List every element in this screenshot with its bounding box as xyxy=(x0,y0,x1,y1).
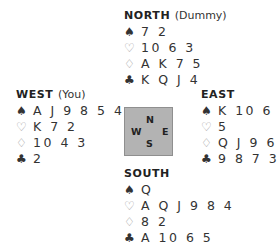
east-spades-cards: K 10 6 3 xyxy=(218,103,279,119)
east-label: EAST xyxy=(201,88,235,101)
diamond-icon: ♢ xyxy=(201,135,218,151)
east-diamonds-cards: Q J 9 6 xyxy=(218,135,277,151)
spade-icon: ♠ xyxy=(124,182,141,198)
north-label: NORTH xyxy=(124,9,170,22)
south-title: SOUTH xyxy=(124,166,234,182)
south-hearts-cards: A Q J 9 8 4 xyxy=(141,198,234,214)
heart-icon: ♡ xyxy=(201,119,218,135)
north-hand: NORTH (Dummy) ♠ 7 2 ♡ 10 6 3 ♢ A K 7 5 ♣… xyxy=(124,8,227,88)
compass-east: E xyxy=(162,127,169,137)
west-spades-cards: A J 9 8 5 4 xyxy=(33,103,124,119)
east-diamonds-row: ♢ Q J 9 6 xyxy=(201,135,279,151)
diamond-icon: ♢ xyxy=(124,56,141,72)
west-clubs-cards: 2 xyxy=(33,151,43,167)
west-role: (You) xyxy=(58,88,86,101)
south-hearts-row: ♡ A Q J 9 8 4 xyxy=(124,198,234,214)
north-diamonds-cards: A K 7 5 xyxy=(141,56,203,72)
east-clubs-cards: 9 8 7 3 xyxy=(218,151,279,167)
south-clubs-cards: A 10 6 5 xyxy=(141,230,213,246)
west-title: WEST (You) xyxy=(16,87,124,103)
east-hearts-row: ♡ 5 xyxy=(201,119,279,135)
spade-icon: ♠ xyxy=(124,24,141,40)
west-clubs-row: ♣ 2 xyxy=(16,151,124,167)
east-clubs-row: ♣ 9 8 7 3 xyxy=(201,151,279,167)
compass-north: N xyxy=(146,115,154,125)
west-diamonds-row: ♢ 10 4 3 xyxy=(16,135,124,151)
spade-icon: ♠ xyxy=(16,103,33,119)
north-clubs-row: ♣ K Q J 4 xyxy=(124,72,227,88)
club-icon: ♣ xyxy=(16,151,33,167)
south-spades-row: ♠ Q xyxy=(124,182,234,198)
north-title: NORTH (Dummy) xyxy=(124,8,227,24)
club-icon: ♣ xyxy=(124,230,141,246)
compass-west: W xyxy=(131,127,141,137)
south-diamonds-cards: 8 2 xyxy=(141,214,168,230)
north-hearts-cards: 10 6 3 xyxy=(141,40,196,56)
west-hand: WEST (You) ♠ A J 9 8 5 4 ♡ K 7 2 ♢ 10 4 … xyxy=(16,87,124,167)
west-hearts-cards: K 7 2 xyxy=(33,119,78,135)
west-label: WEST xyxy=(16,88,53,101)
south-diamonds-row: ♢ 8 2 xyxy=(124,214,234,230)
west-hearts-row: ♡ K 7 2 xyxy=(16,119,124,135)
compass-table: N W E S xyxy=(124,107,173,156)
north-role: (Dummy) xyxy=(175,9,227,22)
north-clubs-cards: K Q J 4 xyxy=(141,72,200,88)
north-spades-cards: 7 2 xyxy=(141,24,168,40)
south-hand: SOUTH ♠ Q ♡ A Q J 9 8 4 ♢ 8 2 ♣ A 10 6 5 xyxy=(124,166,234,246)
heart-icon: ♡ xyxy=(124,40,141,56)
east-hearts-cards: 5 xyxy=(218,119,228,135)
heart-icon: ♡ xyxy=(16,119,33,135)
diamond-icon: ♢ xyxy=(124,214,141,230)
club-icon: ♣ xyxy=(201,151,218,167)
south-label: SOUTH xyxy=(124,167,170,180)
east-title: EAST xyxy=(201,87,279,103)
west-diamonds-cards: 10 4 3 xyxy=(33,135,88,151)
east-hand: EAST ♠ K 10 6 3 ♡ 5 ♢ Q J 9 6 ♣ 9 8 7 3 xyxy=(201,87,279,167)
club-icon: ♣ xyxy=(124,72,141,88)
north-hearts-row: ♡ 10 6 3 xyxy=(124,40,227,56)
south-spades-cards: Q xyxy=(141,182,153,198)
compass-south: S xyxy=(146,139,153,149)
north-diamonds-row: ♢ A K 7 5 xyxy=(124,56,227,72)
north-spades-row: ♠ 7 2 xyxy=(124,24,227,40)
diamond-icon: ♢ xyxy=(16,135,33,151)
west-spades-row: ♠ A J 9 8 5 4 xyxy=(16,103,124,119)
south-clubs-row: ♣ A 10 6 5 xyxy=(124,230,234,246)
heart-icon: ♡ xyxy=(124,198,141,214)
east-spades-row: ♠ K 10 6 3 xyxy=(201,103,279,119)
spade-icon: ♠ xyxy=(201,103,218,119)
